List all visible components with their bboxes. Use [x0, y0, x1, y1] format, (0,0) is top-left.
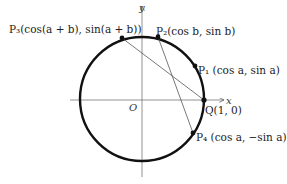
- point-p4: [191, 131, 196, 136]
- label-p2: P₂(cos b, sin b): [156, 25, 235, 37]
- unit-circle-diagram: x y O P₃(cos(a + b), sin(a + b)) P₂(cos …: [0, 0, 287, 184]
- label-p3: P₃(cos(a + b), sin(a + b)): [9, 23, 142, 35]
- segment-p2-p4: [158, 37, 193, 133]
- label-p4: P₄ (cos a, −sin a): [196, 131, 287, 143]
- point-p3: [120, 36, 125, 41]
- point-p1: [193, 64, 198, 69]
- point-q: [201, 97, 206, 102]
- y-axis-label: y: [138, 2, 145, 13]
- origin-label: O: [129, 102, 137, 113]
- segment-p3-q: [122, 38, 204, 100]
- label-p1: P₁ (cos a, sin a): [198, 64, 280, 76]
- label-q: Q(1, 0): [205, 104, 242, 116]
